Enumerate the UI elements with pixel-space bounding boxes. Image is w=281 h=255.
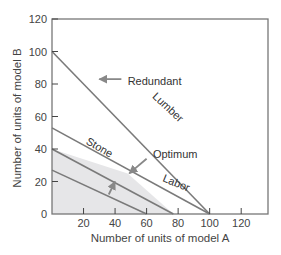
x-axis-title: Number of units of model A bbox=[91, 232, 230, 244]
y-tick-label: 20 bbox=[35, 176, 47, 188]
x-tick-label: 20 bbox=[77, 217, 89, 229]
y-tick-label: 100 bbox=[29, 46, 47, 58]
y-tick-label: 40 bbox=[35, 143, 47, 155]
redundant-label: Redundant bbox=[128, 75, 182, 87]
y-tick-label: 120 bbox=[29, 13, 47, 25]
x-tick-label: 120 bbox=[232, 217, 250, 229]
x-tick-label: 100 bbox=[200, 217, 218, 229]
y-tick-label: 0 bbox=[41, 208, 47, 220]
optimum-arrow-icon bbox=[129, 159, 146, 174]
y-tick-label: 80 bbox=[35, 78, 47, 90]
y-axis-title: Number of units of model B bbox=[11, 48, 23, 188]
lumber-label: Lumber bbox=[151, 90, 187, 124]
x-tick-label: 80 bbox=[172, 217, 184, 229]
y-tick-label: 60 bbox=[35, 111, 47, 123]
stone-label: Stone bbox=[84, 135, 115, 160]
x-tick-label: 40 bbox=[109, 217, 121, 229]
optimum-label: Optimum bbox=[153, 148, 198, 160]
lp-chart: 20406080100120020406080100120 RedundantO… bbox=[0, 0, 281, 255]
x-tick-label: 60 bbox=[140, 217, 152, 229]
